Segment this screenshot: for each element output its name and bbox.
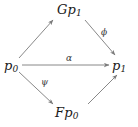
arrow-p0-to-gp1 bbox=[19, 20, 53, 58]
node-gp1-subscript: 1 bbox=[76, 8, 82, 18]
node-gp1: Gp1 bbox=[57, 3, 82, 18]
edge-label-phi: ϕ bbox=[101, 28, 107, 37]
arrow-fp0-to-p1 bbox=[88, 75, 117, 104]
node-p0: p0 bbox=[4, 59, 18, 74]
node-gp1-base: Gp bbox=[57, 2, 76, 17]
node-fp0: Fp0 bbox=[55, 106, 78, 121]
node-p1: p1 bbox=[112, 59, 126, 74]
edge-label-alpha: α bbox=[66, 54, 72, 63]
node-fp0-base: Fp bbox=[55, 105, 73, 120]
node-p0-subscript: 0 bbox=[13, 64, 19, 74]
node-fp0-subscript: 0 bbox=[73, 111, 79, 121]
arrow-gp1-to-p1 bbox=[85, 20, 115, 55]
node-p1-subscript: 1 bbox=[121, 64, 127, 74]
node-p0-base: p bbox=[4, 58, 13, 73]
edge-label-psi: ψ bbox=[41, 78, 48, 87]
node-p1-base: p bbox=[112, 58, 121, 73]
commutative-diagram: Gp1 p0 p1 Fp0 ϕ α ψ bbox=[0, 0, 138, 127]
